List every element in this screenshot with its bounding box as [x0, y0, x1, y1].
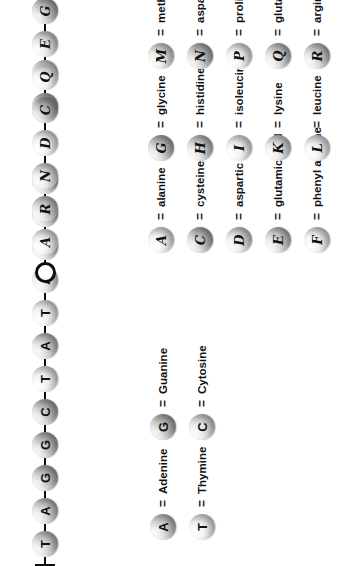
chain-link [44, 293, 46, 300]
legend-label: leucine [311, 75, 323, 115]
legend-label: glycine [155, 75, 167, 115]
protein-legend-column-3: M=methionineN=asparagineP=prolineQ=gluta… [148, 0, 343, 69]
legend-row: L=leucine [304, 59, 330, 161]
legend-equals-sign: = [156, 400, 170, 407]
legend-symbol-bead: K [265, 135, 291, 161]
legend-equals-sign: = [232, 213, 246, 220]
legend-symbol-bead: T [189, 514, 215, 540]
legend-equals-sign: = [193, 29, 207, 36]
nucleotide-bead: A [32, 333, 58, 359]
legend-equals-sign: = [154, 121, 168, 128]
legend-label: histidine [194, 68, 206, 115]
legend-symbol-bead: E [265, 227, 291, 253]
legend-label: glutamine [272, 0, 284, 23]
nucleotide-bead: T [32, 366, 58, 392]
legend-row: I=isoleucine [226, 59, 252, 161]
legend-equals-sign: = [195, 400, 209, 407]
legend-row: P=proline [226, 0, 252, 69]
legend-equals-sign: = [310, 29, 324, 36]
legend-symbol-bead: H [187, 135, 213, 161]
chain-link [44, 425, 46, 432]
legend-label: lysine [272, 82, 284, 115]
legend-equals-sign: = [271, 29, 285, 36]
legend-symbol-bead: A [150, 514, 176, 540]
legend-symbol-bead: C [187, 227, 213, 253]
legend-label: Adenine [157, 449, 169, 494]
legend-label: Cytosine [196, 345, 208, 394]
legend-symbol-bead: A [148, 227, 174, 253]
chain-link [44, 24, 46, 31]
legend-label: Thymine [196, 447, 208, 494]
dna-panel: TAGGCTATAACCGC A=AdenineT=Thymine G=Guan… [0, 283, 352, 566]
legend-equals-sign: = [271, 213, 285, 220]
legend-label: Guanine [157, 348, 169, 394]
legend-row: G=Guanine [150, 345, 176, 440]
legend-row: M=methionine [148, 0, 174, 69]
dna-legend-column-2: G=GuanineC=Cytosine [150, 345, 228, 440]
legend-symbol-bead: N [187, 43, 213, 69]
legend-equals-sign: = [154, 213, 168, 220]
legend-equals-sign: = [193, 121, 207, 128]
legend-equals-sign: = [154, 29, 168, 36]
legend-row: G=glycine [148, 59, 174, 161]
legend-row: T=Thymine [189, 447, 215, 540]
chain-link [44, 491, 46, 498]
chain-link [44, 359, 46, 366]
chain-link [44, 123, 46, 130]
dna-legend-column-1: A=AdenineT=Thymine [150, 447, 228, 540]
nucleotide-bead: A [32, 498, 58, 524]
nucleotide-bead: G [32, 465, 58, 491]
legend-equals-sign: = [156, 500, 170, 507]
protein-panel: ARNDCQEGHILKKH A=alanineC=cysteineD=aspa… [0, 0, 352, 283]
legend-label: methionine [155, 0, 167, 23]
legend-label: alanine [155, 167, 167, 207]
legend-symbol-bead: G [148, 135, 174, 161]
chain-link [44, 557, 46, 564]
chain-link [44, 392, 46, 399]
legend-row: A=Adenine [150, 447, 176, 540]
legend-symbol-bead: M [148, 43, 174, 69]
chain-link [44, 524, 46, 531]
legend-symbol-bead: Q [265, 43, 291, 69]
legend-symbol-bead: G [150, 414, 176, 440]
amino-acid-chain: ARNDCQEGHILKKH [26, 0, 64, 283]
legend-symbol-bead: R [304, 43, 330, 69]
chain-link [44, 458, 46, 465]
legend-symbol-bead: D [226, 227, 252, 253]
legend-equals-sign: = [310, 121, 324, 128]
legend-label: arginine [311, 0, 323, 23]
chain-start-ring [35, 262, 56, 283]
legend-row: C=Cytosine [189, 345, 215, 440]
legend-equals-sign: = [232, 29, 246, 36]
legend-row: K=lysine [265, 59, 291, 161]
legend-equals-sign: = [195, 500, 209, 507]
amino-acid-bead: G [32, 0, 58, 24]
legend-equals-sign: = [310, 213, 324, 220]
legend-row: R=arginine [304, 0, 330, 69]
legend-equals-sign: = [193, 213, 207, 220]
nucleotide-bead: T [32, 300, 58, 326]
legend-symbol-bead: C [189, 414, 215, 440]
legend-symbol-bead: F [304, 227, 330, 253]
nucleotide-bead: C [32, 399, 58, 425]
amino-acid-bead: C [32, 97, 58, 123]
chain-link [44, 156, 46, 163]
legend-label: asparagine [194, 0, 206, 23]
legend-label: proline [233, 0, 245, 23]
legend-label: cysteine [194, 161, 206, 207]
chain-link [44, 326, 46, 333]
amino-acid-bead: A [32, 229, 58, 255]
legend-symbol-bead: L [304, 135, 330, 161]
legend-row: H=histidine [187, 59, 213, 161]
legend-row: N=asparagine [187, 0, 213, 69]
amino-acid-bead: E [32, 31, 58, 57]
nucleotide-bead: T [32, 531, 58, 557]
amino-acid-bead: R [32, 196, 58, 222]
legend-equals-sign: = [271, 121, 285, 128]
nucleotide-bead: G [32, 432, 58, 458]
legend-symbol-bead: I [226, 135, 252, 161]
amino-acid-bead: D [32, 130, 58, 156]
figure-canvas: TAGGCTATAACCGC A=AdenineT=Thymine G=Guan… [0, 0, 352, 566]
amino-acid-bead: Q [32, 64, 58, 90]
protein-legend-column-2: G=glycineH=histidineI=isoleucineK=lysine… [148, 59, 343, 161]
